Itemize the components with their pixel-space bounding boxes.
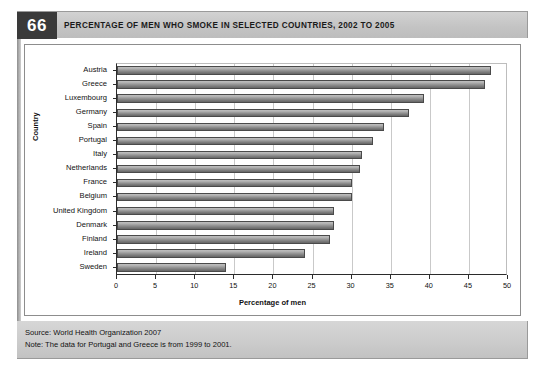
y-tick-label: Italy — [0, 147, 107, 161]
x-tick-mark — [468, 275, 469, 279]
y-tick-label: Germany — [0, 105, 107, 119]
bar-row — [117, 78, 506, 92]
figure-number-badge: 66 — [17, 12, 57, 39]
bar-row — [117, 247, 506, 261]
y-tick-mark — [113, 140, 116, 141]
y-tick-label: Belgium — [0, 189, 107, 203]
bar-row — [117, 120, 506, 134]
chart-panel: Country AustriaGreeceLuxembourgGermanySp… — [24, 44, 521, 316]
x-tick-label: 30 — [347, 281, 355, 290]
source-line: Source: World Health Organization 2007 — [25, 327, 527, 339]
bar — [117, 179, 352, 188]
y-tick-mark — [113, 84, 116, 85]
figure-footnotes: Source: World Health Organization 2007 N… — [17, 321, 528, 359]
x-tick-label: 35 — [386, 281, 394, 290]
y-tick-label: Luxembourg — [0, 91, 107, 105]
y-tick-mark — [113, 225, 116, 226]
x-tick-label: 10 — [190, 281, 198, 290]
y-tick-mark — [113, 182, 116, 183]
y-tick-label: Austria — [0, 63, 107, 77]
bar — [117, 193, 352, 202]
y-tick-mark — [113, 239, 116, 240]
bar-row — [117, 162, 506, 176]
y-tick-mark — [113, 211, 116, 212]
bar — [117, 66, 491, 75]
bar — [117, 137, 373, 146]
bar-row — [117, 219, 506, 233]
x-tick-label: 15 — [229, 281, 237, 290]
x-tick-label: 50 — [503, 281, 511, 290]
x-axis-label: Percentage of men — [25, 298, 520, 307]
bar-series — [117, 64, 506, 274]
x-tick-label: 5 — [153, 281, 157, 290]
plot-area — [116, 63, 507, 275]
x-tick-label: 25 — [307, 281, 315, 290]
note-line: Note: The data for Portugal and Greece i… — [25, 339, 527, 351]
x-tick-mark — [390, 275, 391, 279]
bar — [117, 109, 409, 118]
bar — [117, 123, 384, 132]
bar — [117, 165, 360, 174]
y-tick-label: Greece — [0, 77, 107, 91]
y-tick-mark — [113, 168, 116, 169]
bar-row — [117, 64, 506, 78]
x-tick-mark — [272, 275, 273, 279]
x-tick-label: 0 — [114, 281, 118, 290]
y-tick-label: Finland — [0, 232, 107, 246]
bar-row — [117, 134, 506, 148]
x-tick-mark — [233, 275, 234, 279]
x-tick-mark — [194, 275, 195, 279]
x-tick-label: 40 — [425, 281, 433, 290]
y-tick-mark — [113, 253, 116, 254]
y-tick-label: United Kingdom — [0, 204, 107, 218]
y-tick-label: Spain — [0, 119, 107, 133]
x-tick-mark — [116, 275, 117, 279]
y-tick-mark — [113, 267, 116, 268]
bar-row — [117, 261, 506, 275]
bar-row — [117, 148, 506, 162]
bar-row — [117, 205, 506, 219]
y-tick-mark — [113, 98, 116, 99]
y-tick-mark — [113, 196, 116, 197]
x-tick-mark — [429, 275, 430, 279]
x-tick-mark — [351, 275, 352, 279]
y-tick-label: Netherlands — [0, 161, 107, 175]
y-tick-label: Portugal — [0, 133, 107, 147]
bar — [117, 80, 485, 89]
figure-header: 66 PERCENTAGE OF MEN WHO SMOKE IN SELECT… — [17, 11, 528, 38]
x-tick-mark — [155, 275, 156, 279]
y-tick-mark — [113, 112, 116, 113]
x-tick-mark — [312, 275, 313, 279]
bar — [117, 151, 362, 160]
bar — [117, 249, 305, 258]
bar-row — [117, 233, 506, 247]
y-tick-label: Ireland — [0, 246, 107, 260]
y-tick-label: Denmark — [0, 218, 107, 232]
bar-row — [117, 92, 506, 106]
y-tick-label: France — [0, 175, 107, 189]
x-tick-mark — [507, 275, 508, 279]
x-tick-label: 20 — [268, 281, 276, 290]
bar-row — [117, 106, 506, 120]
bar — [117, 207, 334, 216]
y-tick-mark — [113, 154, 116, 155]
y-tick-mark — [113, 70, 116, 71]
bar — [117, 263, 226, 272]
bar-row — [117, 176, 506, 190]
bar-row — [117, 190, 506, 204]
x-tick-label: 45 — [464, 281, 472, 290]
bar — [117, 235, 330, 244]
bar — [117, 94, 424, 103]
plot-wrapper: Country AustriaGreeceLuxembourgGermanySp… — [25, 45, 520, 315]
figure-title: PERCENTAGE OF MEN WHO SMOKE IN SELECTED … — [64, 12, 523, 39]
y-tick-mark — [113, 126, 116, 127]
bar — [117, 221, 334, 230]
y-tick-label: Sweden — [0, 260, 107, 274]
